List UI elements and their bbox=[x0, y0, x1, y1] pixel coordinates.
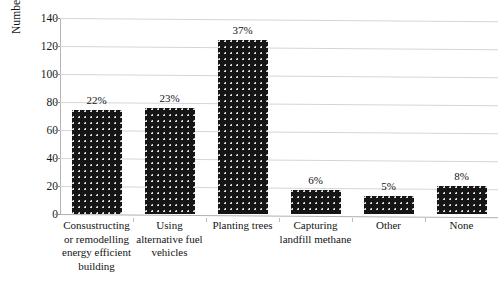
bars-layer: 22%23%37%6%5%8% bbox=[60, 18, 498, 214]
x-axis-category-labels: Consustructingor remodellingenergy effic… bbox=[60, 219, 498, 297]
y-tick-label-140: 140 bbox=[26, 13, 58, 24]
bar-group[interactable]: 5% bbox=[364, 176, 414, 214]
x-category-label-line: building bbox=[60, 260, 133, 274]
y-tick-label-80: 80 bbox=[26, 97, 58, 108]
x-category-label-line: alternative fuel bbox=[133, 233, 206, 247]
y-axis-tick-labels: 020406080100120140 bbox=[26, 18, 58, 214]
bar-group[interactable]: 22% bbox=[72, 90, 122, 214]
x-category-label: Other bbox=[352, 219, 425, 233]
bar-value-label: 8% bbox=[454, 171, 469, 182]
y-tick-label-20: 20 bbox=[26, 181, 58, 192]
bar[interactable] bbox=[364, 196, 414, 214]
x-category-label-line: Consustructing bbox=[60, 219, 133, 233]
bar-group[interactable]: 8% bbox=[437, 166, 487, 214]
y-tick-label-60: 60 bbox=[26, 125, 58, 136]
x-category-label: Capturinglandfill methane bbox=[279, 219, 352, 246]
bar-value-label: 23% bbox=[159, 93, 179, 104]
y-tick-mark-0 bbox=[55, 214, 60, 215]
x-category-label-line: None bbox=[425, 219, 498, 233]
bar-value-label: 6% bbox=[308, 175, 323, 186]
x-category-label-line: Planting trees bbox=[206, 219, 279, 233]
x-category-label: Usingalternative fuelvehicles bbox=[133, 219, 206, 260]
bar[interactable] bbox=[145, 108, 195, 214]
x-category-label-line: energy efficient bbox=[60, 246, 133, 260]
x-category-label: None bbox=[425, 219, 498, 233]
bar-value-label: 22% bbox=[86, 95, 106, 106]
bar[interactable] bbox=[437, 186, 487, 214]
bar[interactable] bbox=[72, 110, 122, 214]
x-category-label: Planting trees bbox=[206, 219, 279, 233]
bar-value-label: 5% bbox=[381, 181, 396, 192]
y-tick-label-0: 0 bbox=[26, 209, 58, 220]
y-tick-label-120: 120 bbox=[26, 41, 58, 52]
x-category-label-line: or remodelling bbox=[60, 233, 133, 247]
bar-group[interactable]: 37% bbox=[218, 20, 268, 214]
bar-group[interactable]: 23% bbox=[145, 88, 195, 214]
bar-chart-figure: Number of respondents 020406080100120140… bbox=[0, 0, 504, 300]
bar[interactable] bbox=[291, 190, 341, 214]
bar-value-label: 37% bbox=[232, 25, 252, 36]
y-tick-label-100: 100 bbox=[26, 69, 58, 80]
x-category-label-line: Using bbox=[133, 219, 206, 233]
y-tick-label-40: 40 bbox=[26, 153, 58, 164]
x-category-label-line: landfill methane bbox=[279, 233, 352, 247]
bar[interactable] bbox=[218, 40, 268, 214]
bar-group[interactable]: 6% bbox=[291, 170, 341, 214]
plot-area: 22%23%37%6%5%8% bbox=[60, 18, 498, 214]
x-category-label-line: Other bbox=[352, 219, 425, 233]
x-category-label-line: Capturing bbox=[279, 219, 352, 233]
x-category-label-line: vehicles bbox=[133, 246, 206, 260]
x-category-label: Consustructingor remodellingenergy effic… bbox=[60, 219, 133, 273]
